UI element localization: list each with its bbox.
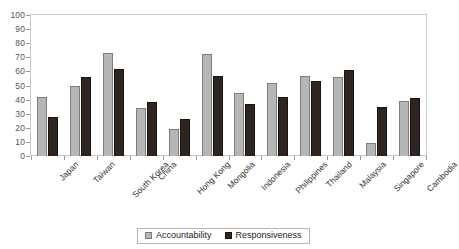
x-axis-category-label: Cambodia xyxy=(425,160,458,193)
legend-entry: Accountability xyxy=(145,231,212,240)
bar-accountability xyxy=(169,129,179,156)
bar-accountability xyxy=(366,143,376,156)
x-axis-category-label: Hong Kong xyxy=(196,160,232,196)
bar-responsiveness xyxy=(213,76,223,156)
bar-accountability xyxy=(300,76,310,156)
chart-legend: AccountabilityResponsiveness xyxy=(137,228,310,244)
bar-group xyxy=(294,15,327,156)
y-tick-label: 100 xyxy=(11,11,25,20)
x-axis-category-label: Philippines xyxy=(294,160,329,195)
x-axis-category-label: Taiwan xyxy=(92,160,117,185)
bar-responsiveness xyxy=(377,107,387,156)
bar-group xyxy=(64,15,97,156)
bar-accountability xyxy=(234,93,244,156)
bar-group xyxy=(229,15,262,156)
bar-responsiveness xyxy=(344,70,354,156)
y-tick-label: 20 xyxy=(15,124,25,133)
x-axis-labels: JapanTaiwanSouth KoreaChinaHong KongMong… xyxy=(31,160,426,216)
bar-group xyxy=(97,15,130,156)
y-tick-label: 10 xyxy=(15,138,25,147)
y-tick-label: 30 xyxy=(15,109,25,118)
legend-swatch-icon xyxy=(225,232,232,239)
bar-group xyxy=(130,15,163,156)
bar-accountability xyxy=(136,108,146,156)
x-axis-category-label: Indonesia xyxy=(260,160,292,192)
legend-swatch-icon xyxy=(145,232,152,239)
bar-group xyxy=(327,15,360,156)
bar-accountability xyxy=(70,86,80,157)
bar-responsiveness xyxy=(81,77,91,156)
legend-entry: Responsiveness xyxy=(225,231,302,240)
bar-accountability xyxy=(333,77,343,156)
plot-area xyxy=(31,15,426,156)
y-axis: 0102030405060708090100 xyxy=(0,0,28,168)
y-tick-label: 80 xyxy=(15,39,25,48)
y-tick-label: 40 xyxy=(15,95,25,104)
bar-responsiveness xyxy=(48,117,58,156)
y-tick-label: 70 xyxy=(15,53,25,62)
bar-responsiveness xyxy=(410,98,420,156)
bar-accountability xyxy=(37,97,47,156)
bar-accountability xyxy=(103,53,113,156)
x-axis-category-label: Japan xyxy=(58,160,80,182)
bar-group xyxy=(163,15,196,156)
y-tick-label: 90 xyxy=(15,25,25,34)
legend-label: Responsiveness xyxy=(236,231,302,240)
bar-responsiveness xyxy=(147,102,157,156)
bar-accountability xyxy=(267,83,277,156)
bar-responsiveness xyxy=(278,97,288,156)
y-tick-mark xyxy=(26,156,30,157)
bar-responsiveness xyxy=(311,81,321,156)
x-tick-mark xyxy=(426,156,427,160)
y-tick-label: 50 xyxy=(15,81,25,90)
bar-accountability xyxy=(202,54,212,156)
bar-group xyxy=(196,15,229,156)
bar-accountability xyxy=(399,101,409,156)
bar-group xyxy=(393,15,426,156)
bar-group xyxy=(31,15,64,156)
x-axis-category-label: Malaysia xyxy=(358,160,388,190)
y-tick-label: 60 xyxy=(15,67,25,76)
bar-group xyxy=(360,15,393,156)
y-tick-label: 0 xyxy=(20,152,25,161)
bar-responsiveness xyxy=(180,119,190,156)
bar-responsiveness xyxy=(245,104,255,156)
bar-responsiveness xyxy=(114,69,124,156)
x-axis-category-label: Thailand xyxy=(324,160,353,189)
bar-group xyxy=(261,15,294,156)
legend-label: Accountability xyxy=(156,231,212,240)
x-axis-category-label: Singapore xyxy=(392,160,425,193)
